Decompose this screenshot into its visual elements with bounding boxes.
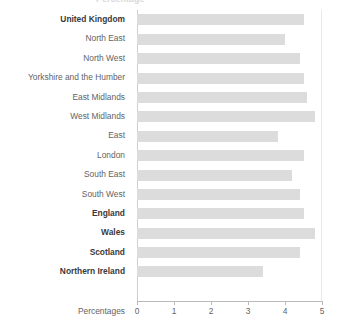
bar-track [137,185,322,204]
bar [137,53,300,64]
bar-row: East Midlands [0,88,340,107]
category-label: London [0,146,131,165]
category-label: Scotland [0,243,131,262]
x-axis-title: Percentages [0,306,131,316]
x-axis-tick-label: 2 [199,306,223,316]
category-label: England [0,204,131,223]
bar [137,92,307,103]
bar [137,247,300,258]
category-label: Northern Ireland [0,262,131,281]
bar [137,228,315,239]
bar-track [137,126,322,145]
bar-row: North West [0,49,340,68]
bar-track [137,68,322,87]
x-axis-line [137,301,322,302]
category-label: East [0,126,131,145]
bar-track [137,88,322,107]
bar [137,170,292,181]
bar-row: South East [0,165,340,184]
x-axis-tick-label: 1 [162,306,186,316]
x-axis-tick-label: 5 [310,306,334,316]
bar-track [137,262,322,281]
bar-track [137,146,322,165]
bar [137,34,285,45]
clipped-title-strip: Percentage [0,0,340,10]
bar-row: North East [0,29,340,48]
x-axis-tick [211,301,212,305]
category-label: South West [0,185,131,204]
bar-row: South West [0,185,340,204]
clipped-title-text: Percentage [96,0,145,4]
category-label: North East [0,29,131,48]
bar [137,111,315,122]
bar-row: West Midlands [0,107,340,126]
bar-track [137,29,322,48]
bar-track [137,165,322,184]
bar-chart: Percentage United KingdomNorth EastNorth… [0,0,340,332]
category-label: South East [0,165,131,184]
category-label: Yorkshire and the Humber [0,68,131,87]
bar-track [137,243,322,262]
bar [137,131,278,142]
category-label: North West [0,49,131,68]
bar-row: Yorkshire and the Humber [0,68,340,87]
bar [137,266,263,277]
bar [137,73,304,84]
bar-rows: United KingdomNorth EastNorth WestYorksh… [0,10,340,281]
bar-row: Northern Ireland [0,262,340,281]
bar-row: United Kingdom [0,10,340,29]
bar-row: London [0,146,340,165]
category-label: West Midlands [0,107,131,126]
category-label: United Kingdom [0,10,131,29]
category-label: Wales [0,223,131,242]
bar-track [137,223,322,242]
x-axis-tick [248,301,249,305]
category-label: East Midlands [0,88,131,107]
bar [137,208,304,219]
bar-row: Wales [0,223,340,242]
x-axis-tick-label: 3 [236,306,260,316]
bar-track [137,49,322,68]
x-axis-tick-label: 4 [273,306,297,316]
x-axis-tick [322,301,323,305]
bar [137,150,304,161]
bar [137,189,300,200]
bar [137,14,304,25]
bar-row: East [0,126,340,145]
bar-row: Scotland [0,243,340,262]
x-axis-tick [137,301,138,305]
x-axis-tick [285,301,286,305]
plot-area: United KingdomNorth EastNorth WestYorksh… [0,10,340,332]
bar-track [137,10,322,29]
bar-track [137,107,322,126]
x-axis-tick [174,301,175,305]
bar-row: England [0,204,340,223]
bar-track [137,204,322,223]
